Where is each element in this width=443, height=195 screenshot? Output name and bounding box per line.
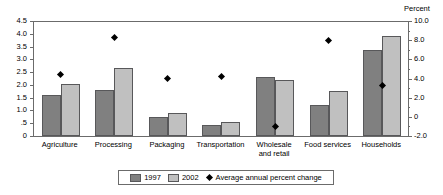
left-axis-tick-mark <box>30 110 33 111</box>
average-annual-percent-change-marker <box>325 37 332 44</box>
average-annual-percent-change-marker <box>164 75 171 82</box>
left-axis-tick-mark <box>30 136 33 137</box>
legend-item-average-annual-percent-change: Average annual percent change <box>206 174 322 182</box>
left-axis-tick-label: 1.5 <box>5 94 27 102</box>
bar-1997 <box>95 90 114 136</box>
bar-1997 <box>202 125 221 137</box>
bar-group <box>248 21 302 136</box>
bar-group <box>195 21 249 136</box>
left-axis-tick-mark <box>30 34 33 35</box>
bar-group <box>302 21 356 136</box>
left-axis-tick-mark <box>30 123 33 124</box>
secondary-axis-title: Percent <box>404 5 430 13</box>
average-annual-percent-change-marker <box>218 73 225 80</box>
bar-2002 <box>61 84 80 136</box>
legend-item-1997: 1997 <box>130 174 161 182</box>
right-axis-tick-label: 0 <box>414 113 440 121</box>
left-axis-tick-mark <box>30 47 33 48</box>
right-axis-tick-label: 2.0 <box>414 94 440 102</box>
x-axis-baseline <box>33 136 409 137</box>
diamond-marker-icon <box>206 174 213 181</box>
category-label: Households <box>348 140 414 149</box>
bar-1997 <box>42 95 61 136</box>
bar-group <box>355 21 409 136</box>
average-annual-percent-change-marker <box>57 71 64 78</box>
left-axis-tick-label: 0 <box>5 132 27 140</box>
right-axis-tick-label: 10.0 <box>414 17 440 25</box>
right-axis-tick-label: 8.0 <box>414 36 440 44</box>
left-axis-tick-label: 3.5 <box>5 43 27 51</box>
left-axis-tick-mark <box>30 72 33 73</box>
left-axis-tick-label: 3.0 <box>5 55 27 63</box>
left-axis-tick-label: .5 <box>5 119 27 127</box>
bar-2002 <box>275 80 294 136</box>
left-axis-tick-mark <box>30 21 33 22</box>
right-axis-tick-mark <box>408 136 412 137</box>
bar-group <box>34 21 88 136</box>
left-axis-tick-label: 2.5 <box>5 68 27 76</box>
chart-container: Percent 0.51.01.52.02.53.03.54.04.5 -2.0… <box>0 0 443 195</box>
bar-2002 <box>221 122 240 136</box>
average-annual-percent-change-marker <box>111 34 118 41</box>
bar-2002 <box>168 113 187 136</box>
bar-1997 <box>310 105 329 136</box>
legend-item-2002: 2002 <box>168 174 199 182</box>
left-axis-tick-mark <box>30 59 33 60</box>
right-axis-tick-label: 4.0 <box>414 75 440 83</box>
bar-2002 <box>114 68 133 136</box>
left-axis-tick-label: 2.0 <box>5 81 27 89</box>
bar-2002 <box>329 91 348 136</box>
bar-1997 <box>149 117 168 136</box>
legend-label-2002: 2002 <box>182 174 199 182</box>
right-axis-tick-label: 6.0 <box>414 55 440 63</box>
chart-legend: 1997 2002 Average annual percent change <box>118 170 334 185</box>
left-axis-tick-mark <box>30 85 33 86</box>
bar-group <box>141 21 195 136</box>
legend-swatch-icon-2002 <box>168 174 179 182</box>
left-axis-tick-label: 4.5 <box>5 17 27 25</box>
legend-label-average-annual-percent-change: Average annual percent change <box>216 174 322 182</box>
legend-swatch-icon-1997 <box>130 174 141 182</box>
right-axis-tick-label: -2.0 <box>414 132 440 140</box>
plot-area <box>34 21 408 136</box>
bar-group <box>88 21 142 136</box>
left-axis-tick-mark <box>30 98 33 99</box>
left-axis-tick-label: 4.0 <box>5 30 27 38</box>
bar-1997 <box>363 50 382 136</box>
legend-label-1997: 1997 <box>144 174 161 182</box>
left-axis-tick-label: 1.0 <box>5 106 27 114</box>
